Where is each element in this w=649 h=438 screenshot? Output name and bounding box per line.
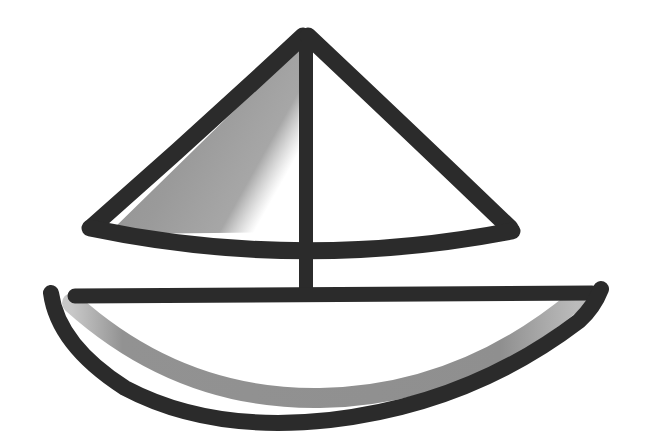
deck-stroke xyxy=(75,293,592,296)
deck-line xyxy=(75,293,592,296)
illustration-canvas: Sailboat Hand-drawn sailboat with a tria… xyxy=(0,0,649,438)
sailboat-icon: Sailboat Hand-drawn sailboat with a tria… xyxy=(0,0,649,438)
